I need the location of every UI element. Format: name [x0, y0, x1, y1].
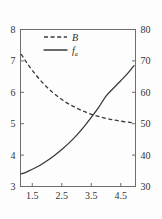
- x-tick-label-3: 4.5: [115, 190, 128, 201]
- y-left-tick-label-2: 5: [11, 118, 16, 129]
- y-right-tick-label-2: 50: [141, 118, 151, 129]
- y-axis-right-ticks: [132, 61, 136, 155]
- y-right-tick-label-3: 60: [141, 87, 151, 98]
- x-tick-label-1: 2.5: [56, 190, 69, 201]
- chart-canvas: 1.52.53.54.5 345678 304050607080 Bfa: [0, 0, 162, 219]
- x-axis-tick-labels: 1.52.53.54.5: [26, 190, 127, 201]
- y-right-tick-label-4: 70: [141, 55, 151, 66]
- chart-figure: 1.52.53.54.5 345678 304050607080 Bfa: [0, 0, 162, 219]
- legend-subscript-1: a: [75, 51, 78, 57]
- y-axis-left-ticks: [21, 61, 25, 155]
- y-right-tick-label-5: 80: [141, 24, 151, 35]
- legend-label-1: fa: [72, 45, 78, 57]
- series-f-a: [21, 66, 134, 174]
- y-left-tick-label-1: 4: [11, 150, 16, 161]
- y-right-tick-label-0: 30: [141, 181, 151, 192]
- legend-label-0: B: [72, 32, 78, 43]
- y-axis-right-tick-labels: 304050607080: [141, 24, 151, 192]
- y-left-tick-label-0: 3: [11, 181, 16, 192]
- y-left-tick-label-4: 7: [11, 55, 16, 66]
- data-series-layer: [21, 54, 134, 174]
- y-left-tick-label-3: 6: [11, 87, 16, 98]
- y-left-tick-label-5: 8: [11, 24, 16, 35]
- chart-legend: Bfa: [44, 32, 78, 57]
- x-tick-label-0: 1.5: [26, 190, 39, 201]
- x-tick-label-2: 3.5: [85, 190, 98, 201]
- y-right-tick-label-1: 40: [141, 150, 151, 161]
- series-B: [21, 54, 134, 123]
- x-axis-ticks: [32, 183, 120, 187]
- y-axis-left-tick-labels: 345678: [11, 24, 16, 192]
